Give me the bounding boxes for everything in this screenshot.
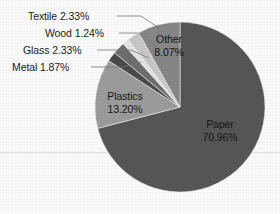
slice-label-plastics: Plastics 13.20% — [96, 90, 154, 115]
slice-label-other-name: Other — [156, 33, 182, 45]
slice-label-metal: Metal 1.87% — [12, 61, 69, 73]
slice-label-plastics-value: 13.20% — [107, 103, 142, 115]
slice-label-paper: Paper 70.96% — [194, 118, 246, 143]
pie-chart-figure: Textile 2.33% Wood 1.24% Glass 2.33% Met… — [0, 0, 280, 214]
slice-label-plastics-name: Plastics — [107, 90, 142, 102]
slice-label-wood: Wood 1.24% — [45, 27, 104, 39]
slice-label-other: Other 8.07% — [148, 33, 190, 58]
slice-label-other-value: 8.07% — [154, 46, 183, 58]
slice-label-textile: Textile 2.33% — [28, 10, 89, 22]
slice-label-paper-value: 70.96% — [202, 131, 237, 143]
slice-label-paper-name: Paper — [206, 118, 234, 130]
slice-label-glass: Glass 2.33% — [23, 44, 81, 56]
